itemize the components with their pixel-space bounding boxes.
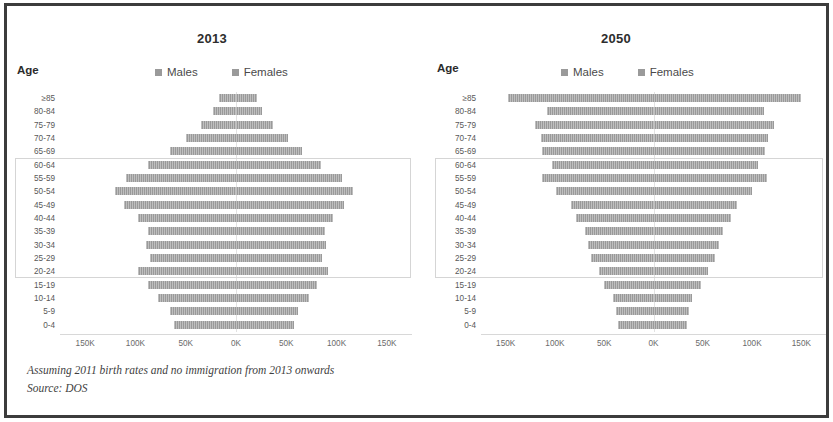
pyramid-row: 5-9 [60, 305, 412, 318]
pyramid-row: 80-84 [60, 105, 412, 118]
bar-females [236, 161, 321, 169]
pyramid-row: 35-39 [481, 225, 826, 238]
x-axis-tick-label: 50K [597, 339, 612, 348]
age-group-label: 60-64 [435, 159, 481, 172]
bar-males [616, 307, 653, 315]
pyramid-row: 80-84 [481, 105, 826, 118]
bar-females [654, 94, 802, 102]
age-group-label: 55-59 [435, 172, 481, 185]
legend-label-females: Females [244, 66, 288, 78]
pyramid-row: 50-54 [60, 185, 412, 198]
pyramid-row: 5-9 [481, 305, 826, 318]
bar-males [552, 161, 654, 169]
pyramid-row: 10-14 [481, 292, 826, 305]
bar-females [236, 321, 294, 329]
bar-females [236, 187, 353, 195]
age-group-label: 45-49 [14, 199, 60, 212]
footnote-assumption: Assuming 2011 birth rates and no immigra… [27, 364, 334, 376]
population-pyramid-2050: 2050 Age Males Females ≥8580-8475-7970-7… [431, 6, 826, 366]
bar-males [146, 241, 237, 249]
bar-males [571, 201, 654, 209]
x-axis-tick-label: 100K [126, 339, 145, 348]
bar-females [236, 254, 322, 262]
bar-males [585, 227, 654, 235]
bar-males [148, 281, 237, 289]
bar-males [158, 294, 236, 302]
bar-males [126, 174, 236, 182]
bar-males [148, 161, 237, 169]
pyramid-row: 60-64 [481, 159, 826, 172]
legend-label-females: Females [650, 66, 694, 78]
x-axis-tick-label: 150K [496, 339, 515, 348]
pyramid-row: 55-59 [60, 172, 412, 185]
pyramid-row: 20-24 [481, 265, 826, 278]
legend-item-females-2050: Females [638, 66, 694, 78]
chart-canvas: 2013 Age Males Females ≥8580-8475-7970-7… [7, 6, 826, 415]
bar-males [604, 281, 653, 289]
bar-females [654, 267, 708, 275]
pyramid-row: 60-64 [60, 159, 412, 172]
age-group-label: 70-74 [14, 132, 60, 145]
pyramid-row: 45-49 [60, 199, 412, 212]
bar-males [541, 134, 653, 142]
bar-males [599, 267, 653, 275]
age-group-label: 45-49 [435, 199, 481, 212]
x-axis-tick-label: 150K [377, 339, 396, 348]
bar-males [613, 294, 653, 302]
bar-males [535, 121, 653, 129]
age-group-label: 30-34 [435, 239, 481, 252]
bar-males [213, 107, 236, 115]
legend-item-females-2013: Females [232, 66, 288, 78]
bar-males [542, 174, 653, 182]
age-group-label: 40-44 [435, 212, 481, 225]
bar-males [201, 121, 236, 129]
bar-males [138, 214, 236, 222]
bar-females [236, 174, 342, 182]
bar-males [542, 147, 653, 155]
bar-males [508, 94, 654, 102]
plot-area-2013: ≥8580-8475-7970-7465-6960-6455-5950-5445… [60, 92, 412, 332]
bar-females [654, 147, 765, 155]
bar-males [547, 107, 653, 115]
x-axis-tick-label: 50K [695, 339, 710, 348]
x-axis-tick-label: 0K [648, 339, 658, 348]
legend-2013: Males Females [155, 66, 288, 78]
pyramid-row: 45-49 [481, 199, 826, 212]
bar-females [236, 307, 298, 315]
bar-males [588, 241, 653, 249]
age-group-label: 75-79 [14, 119, 60, 132]
x-axis-tick-label: 0K [231, 339, 241, 348]
bar-females [236, 267, 328, 275]
bar-females [236, 107, 262, 115]
pyramid-row: 0-4 [60, 319, 412, 332]
pyramid-row: 50-54 [481, 185, 826, 198]
pyramid-row: ≥85 [481, 92, 826, 105]
bar-females [654, 254, 715, 262]
legend-item-males-2013: Males [155, 66, 198, 78]
x-axis-tick-label: 100K [743, 339, 762, 348]
age-axis-label-2013: Age [17, 64, 39, 76]
bar-females [654, 134, 768, 142]
bar-males [576, 214, 654, 222]
age-axis-label-2050: Age [437, 62, 459, 74]
bar-females [654, 174, 767, 182]
age-group-label: 50-54 [435, 185, 481, 198]
bar-males [138, 267, 236, 275]
age-group-label: 20-24 [14, 265, 60, 278]
age-group-label: 0-4 [14, 319, 60, 332]
bar-females [236, 147, 302, 155]
bar-males [150, 254, 236, 262]
population-pyramid-2013: 2013 Age Males Females ≥8580-8475-7970-7… [7, 6, 431, 366]
pyramid-row: 20-24 [60, 265, 412, 278]
age-group-label: 65-69 [435, 145, 481, 158]
age-group-label: 20-24 [435, 265, 481, 278]
age-group-label: 35-39 [14, 225, 60, 238]
age-group-label: 5-9 [14, 305, 60, 318]
age-group-label: 35-39 [435, 225, 481, 238]
age-group-label: 60-64 [14, 159, 60, 172]
bar-females [654, 281, 701, 289]
age-group-label: 50-54 [14, 185, 60, 198]
bar-females [236, 227, 325, 235]
bar-females [654, 321, 688, 329]
x-axis-tick-label: 50K [178, 339, 193, 348]
